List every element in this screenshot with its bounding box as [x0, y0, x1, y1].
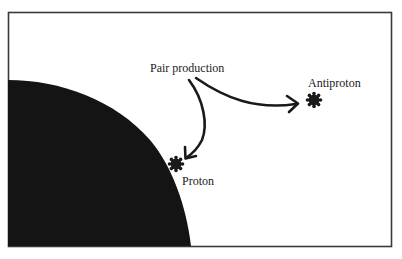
pair-production-label: Pair production [150, 62, 224, 74]
antiproton-particle-icon [306, 92, 323, 109]
proton-label: Proton [182, 175, 214, 187]
pair-production-diagram [0, 0, 402, 259]
proton-particle-icon [168, 156, 185, 173]
antiproton-label: Antiproton [308, 77, 361, 89]
